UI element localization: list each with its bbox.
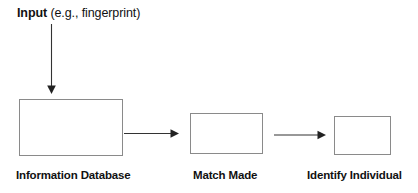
input-title-strong: Input (17, 6, 47, 20)
node-label-information-database: Information Database (16, 169, 131, 182)
flowchart-diagram: Input (e.g., fingerprint) Information Da… (0, 0, 418, 193)
node-label-match-made: Match Made (193, 169, 257, 182)
node-information-database (19, 99, 123, 156)
arrow-match-to-identify (274, 131, 326, 140)
node-identify-individual (334, 116, 391, 155)
node-match-made (190, 113, 263, 154)
node-label-identify-individual: Identify Individual (307, 169, 402, 182)
input-title: Input (e.g., fingerprint) (17, 6, 140, 20)
arrow-input-to-database (47, 24, 56, 94)
arrow-layer (0, 0, 418, 193)
input-title-rest: (e.g., fingerprint) (47, 6, 140, 20)
arrow-database-to-match (124, 129, 179, 138)
